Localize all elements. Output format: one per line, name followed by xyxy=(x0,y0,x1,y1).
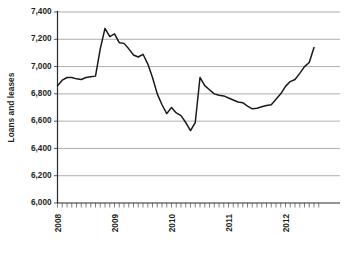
x-axis-tick-labels: 20082009201020112012 xyxy=(54,214,291,233)
data-series-line xyxy=(58,28,315,130)
y-axis-tick-label: 6,200 xyxy=(31,171,52,180)
x-axis-tick-label: 2011 xyxy=(225,214,234,232)
x-axis-minor-ticks xyxy=(58,203,319,208)
y-axis-tick-label: 6,800 xyxy=(31,89,52,98)
chart-container: 6,0006,2006,4006,6006,8007,0007,2007,400… xyxy=(0,0,350,256)
x-axis-tick-label: 2012 xyxy=(282,214,291,233)
x-axis-tick-label: 2008 xyxy=(54,214,63,233)
y-axis-tick-label: 6,600 xyxy=(31,116,52,125)
y-axis-tick-label: 6,400 xyxy=(31,144,52,153)
line-chart: 6,0006,2006,4006,6006,8007,0007,2007,400… xyxy=(0,0,350,256)
x-axis-tick-label: 2009 xyxy=(111,214,120,233)
y-axis-tick-labels: 6,0006,2006,4006,6006,8007,0007,2007,400 xyxy=(31,7,52,207)
y-axis-tick-label: 6,000 xyxy=(31,198,52,207)
y-axis-tick-label: 7,400 xyxy=(31,7,52,16)
x-axis-tick-label: 2010 xyxy=(168,214,177,233)
y-axis-title: Loans and leases xyxy=(6,72,16,142)
y-axis-tick-label: 7,000 xyxy=(31,62,52,71)
y-axis-tick-label: 7,200 xyxy=(31,34,52,43)
